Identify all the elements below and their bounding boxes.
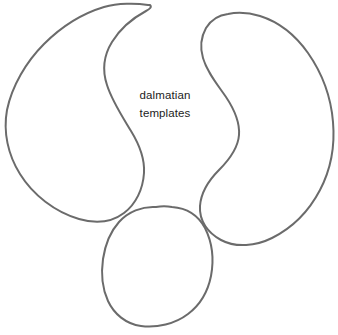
dalmatian-templates-page: dalmatian templates xyxy=(0,0,338,335)
template-shapes-canvas xyxy=(0,0,338,335)
bottom-spot-shape xyxy=(102,206,212,326)
caption-line-2: templates xyxy=(129,104,201,122)
caption-line-1: dalmatian xyxy=(129,86,201,104)
right-spot-shape xyxy=(200,13,334,245)
caption-block: dalmatian templates xyxy=(129,86,201,122)
